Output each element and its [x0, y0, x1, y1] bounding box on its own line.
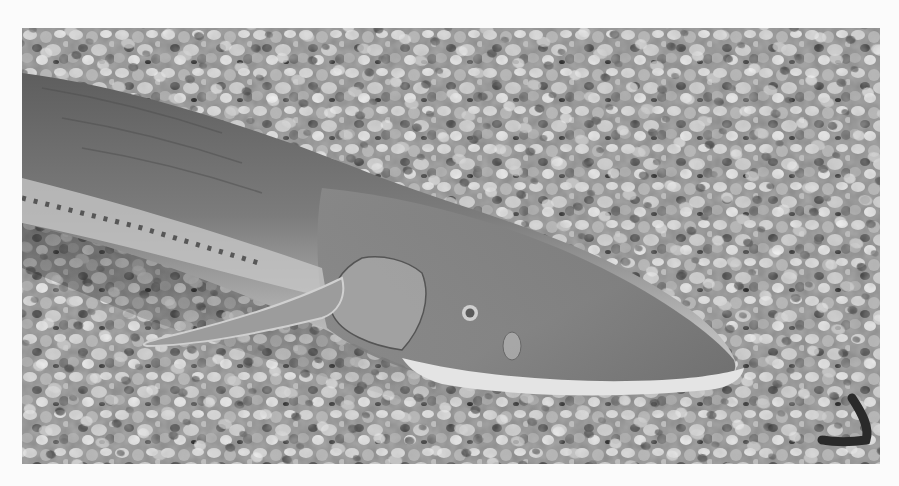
- photograph: [22, 28, 880, 464]
- fish-on-gravel-image: [22, 28, 880, 464]
